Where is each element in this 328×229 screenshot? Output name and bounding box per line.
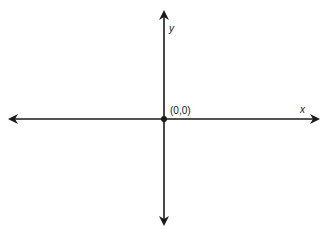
coordinate-plane: (0,0) y x: [0, 0, 328, 229]
x-axis-label: x: [299, 104, 306, 115]
origin-label: (0,0): [170, 105, 191, 116]
origin-point: [161, 116, 167, 122]
y-axis-label: y: [168, 23, 175, 34]
